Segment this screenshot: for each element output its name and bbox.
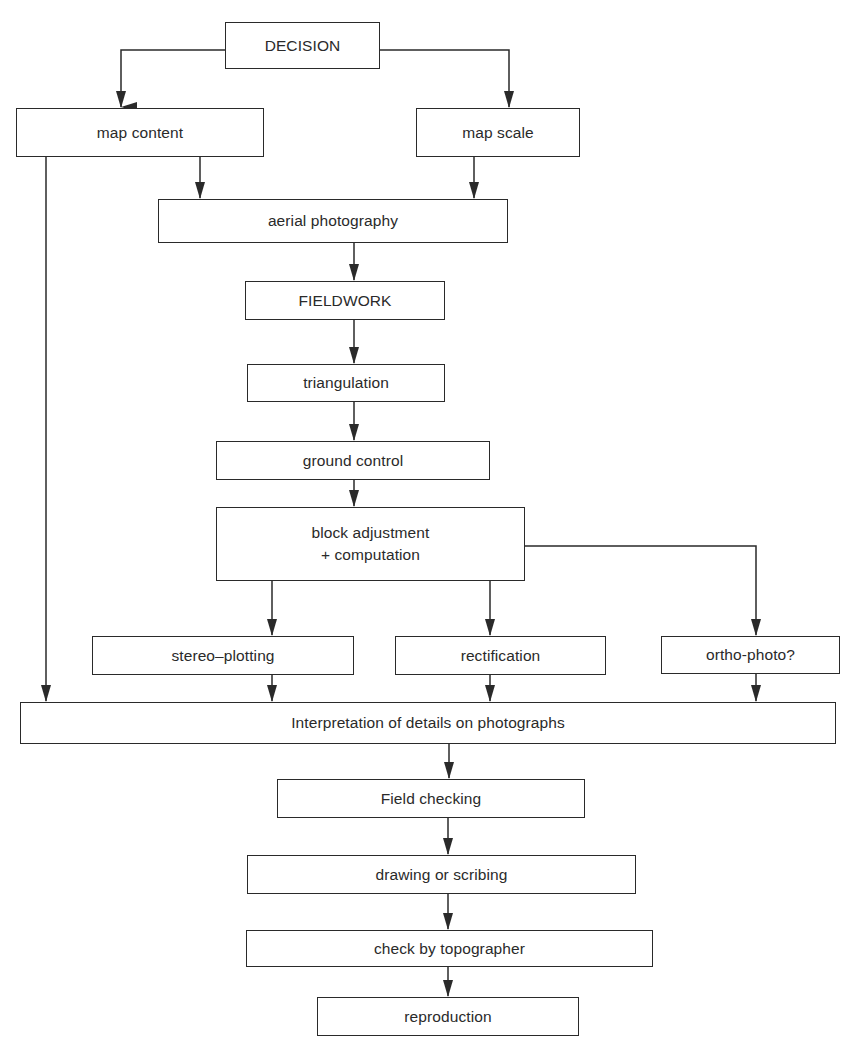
node-label: block adjustment + computation <box>312 522 430 566</box>
flowchart-diagram: DECISION map content map scale aerial ph… <box>0 0 852 1055</box>
node-field-checking: Field checking <box>277 779 585 818</box>
node-label: reproduction <box>404 1006 491 1028</box>
edge-block-ortho <box>525 546 756 635</box>
arrowhead-icon <box>751 619 761 636</box>
node-check-by-topographer: check by topographer <box>246 930 653 967</box>
node-label: ortho-photo? <box>706 644 795 666</box>
node-triangulation: triangulation <box>247 364 445 402</box>
node-label: DECISION <box>265 35 341 57</box>
node-label: check by topographer <box>374 938 525 960</box>
arrowhead-icon <box>485 619 495 636</box>
node-stereo-plotting: stereo–plotting <box>92 636 354 675</box>
arrowhead-icon <box>116 91 126 108</box>
arrowhead-icon <box>469 182 479 199</box>
node-ortho-photo: ortho-photo? <box>661 636 840 674</box>
node-interpretation: Interpretation of details on photographs <box>20 702 836 744</box>
node-label: map content <box>97 122 183 144</box>
node-label: Interpretation of details on photographs <box>291 712 565 734</box>
arrowhead-icon <box>195 182 205 199</box>
arrowhead-icon <box>443 838 453 855</box>
node-block-adjustment: block adjustment + computation <box>216 507 525 581</box>
node-label: map scale <box>462 122 534 144</box>
node-label: rectification <box>461 645 541 667</box>
node-map-scale: map scale <box>416 108 580 157</box>
arrowhead-icon <box>267 619 277 636</box>
arrowhead-icon <box>349 490 359 507</box>
arrowhead-icon <box>504 91 514 108</box>
node-label: drawing or scribing <box>376 864 508 886</box>
arrowhead-icon <box>267 685 277 702</box>
node-label: FIELDWORK <box>298 290 391 312</box>
arrowhead-icon <box>349 347 359 364</box>
node-label: ground control <box>303 450 404 472</box>
node-label: Field checking <box>381 788 481 810</box>
arrowhead-icon <box>485 685 495 702</box>
arrowhead-icon <box>751 685 761 702</box>
node-label: aerial photography <box>268 210 398 232</box>
node-aerial-photography: aerial photography <box>158 199 508 243</box>
edge-decision-map-scale <box>380 50 509 107</box>
node-fieldwork: FIELDWORK <box>245 281 445 320</box>
arrowhead-icon <box>443 913 453 930</box>
node-decision: DECISION <box>225 22 380 69</box>
arrowhead-icon <box>443 980 453 997</box>
node-label: stereo–plotting <box>171 645 274 667</box>
node-reproduction: reproduction <box>317 997 579 1036</box>
arrowhead-icon <box>349 264 359 281</box>
arrowhead-icon <box>349 424 359 441</box>
node-map-content: map content <box>16 108 264 157</box>
node-ground-control: ground control <box>216 441 490 480</box>
edge-decision-map-content <box>121 50 225 107</box>
node-drawing-or-scribing: drawing or scribing <box>247 855 636 894</box>
arrowhead-icon <box>41 685 51 702</box>
node-label: triangulation <box>303 372 389 394</box>
node-rectification: rectification <box>395 636 606 675</box>
arrowhead-icon <box>444 762 454 779</box>
